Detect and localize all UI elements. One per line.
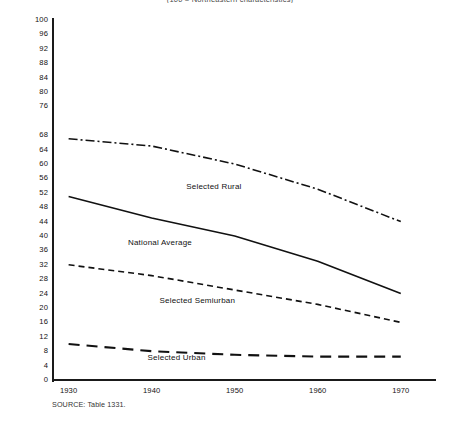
series-label: Selected Urban (148, 353, 206, 362)
chart-figure: (100 = Northeastern characteristics) 048… (0, 0, 460, 421)
x-tick-label: 1940 (143, 386, 160, 395)
x-tick-label: 1930 (60, 386, 77, 395)
series-label: National Average (128, 238, 192, 247)
x-tick-label: 1960 (309, 386, 326, 395)
plot-area (52, 20, 434, 380)
series-label: Selected Semiurban (159, 296, 235, 305)
x-tick-label: 1950 (226, 386, 243, 395)
series-label: Selected Rural (186, 182, 241, 191)
source-note: SOURCE: Table 1331. (52, 400, 126, 409)
x-axis-tick-labels: 19301940195019601970 (0, 386, 460, 400)
x-tick-label: 1970 (392, 386, 409, 395)
